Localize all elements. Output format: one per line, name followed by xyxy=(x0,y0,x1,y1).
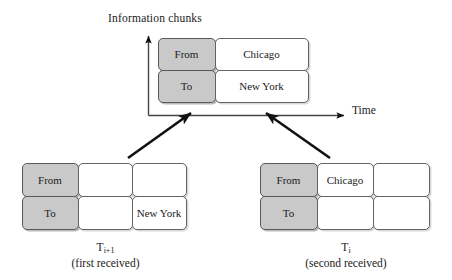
cell-from-label: From xyxy=(158,38,216,71)
caption-note: (second received) xyxy=(259,256,433,270)
cell-from-value: Chicago xyxy=(215,38,309,71)
table-row: From Chicago xyxy=(158,38,308,70)
cell-to-value: New York xyxy=(215,70,309,103)
figure-canvas: Information chunks Time From Chicago To xyxy=(0,0,452,280)
cell-to-value-2: New York xyxy=(132,196,187,230)
cell-from-label: From xyxy=(260,163,318,197)
merge-arrow-right xyxy=(266,113,330,158)
table-row: To New York xyxy=(22,196,186,229)
cell-to-value-1 xyxy=(78,196,133,230)
cell-from-label: From xyxy=(22,163,79,197)
cell-to-value-2 xyxy=(373,196,430,230)
cell-from-value-2 xyxy=(132,163,187,197)
merge-arrow-left xyxy=(128,113,191,158)
cell-from-value-1: Chicago xyxy=(317,163,374,197)
table-row: From Chicago xyxy=(260,163,429,196)
cell-to-label: To xyxy=(158,70,216,103)
table-row: From xyxy=(22,163,186,196)
vertical-axis-label: Information chunks xyxy=(108,12,202,24)
caption-note: (first received) xyxy=(22,256,189,270)
caption-subscript: i+1 xyxy=(104,246,115,255)
caption-t-i-plus-1: Ti+1 (first received) xyxy=(22,240,189,270)
horizontal-axis-label: Time xyxy=(352,104,376,116)
caption-symbol: T xyxy=(97,241,104,253)
cell-to-label: To xyxy=(260,196,318,230)
merged-chunk-table: From Chicago To New York xyxy=(158,38,308,102)
cell-from-value-1 xyxy=(78,163,133,197)
chunk-table-t-i: From Chicago To xyxy=(260,163,429,229)
table-row: To xyxy=(260,196,429,229)
caption-subscript: i xyxy=(348,246,350,255)
chunk-table-t-i-plus-1: From To New York xyxy=(22,163,186,229)
cell-to-value-1 xyxy=(317,196,374,230)
cell-from-value-2 xyxy=(373,163,430,197)
cell-to-label: To xyxy=(22,196,79,230)
caption-t-i: Ti (second received) xyxy=(259,240,433,270)
table-row: To New York xyxy=(158,70,308,102)
